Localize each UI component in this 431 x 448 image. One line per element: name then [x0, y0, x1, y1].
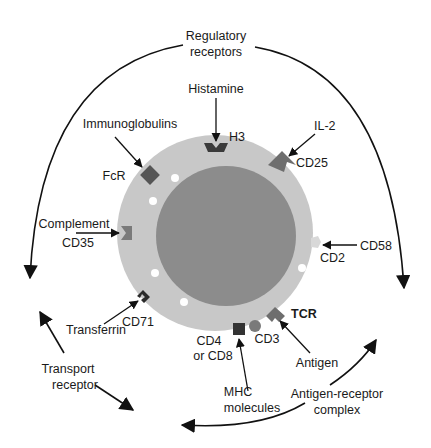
immunoglobulins-label: Immunoglobulins — [83, 117, 178, 131]
histamine-label: Histamine — [188, 82, 244, 96]
transferrin-label: Transferrin — [66, 323, 126, 337]
transport-arc-up — [40, 312, 64, 353]
t-cell-receptor-diagram: Regulatory receptors Transport receptor … — [0, 0, 431, 448]
antigen-receptor-complex-label-2: complex — [314, 403, 361, 417]
cd71-label: CD71 — [122, 315, 154, 329]
cd4-label: CD4 — [196, 334, 221, 348]
cd3-receptor-icon — [249, 320, 261, 332]
cd58-label: CD58 — [360, 239, 392, 253]
complement-label: Complement — [39, 217, 110, 231]
antigen-arrow — [280, 321, 310, 353]
mhc-label-2: molecules — [224, 401, 280, 415]
tcr-label: TCR — [291, 307, 317, 321]
regulatory-receptors-label-1: Regulatory — [186, 29, 247, 43]
il2-arrow — [289, 134, 315, 156]
cd3-label: CD3 — [254, 332, 279, 346]
transport-arc-down — [95, 385, 133, 410]
cd35-label: CD35 — [62, 236, 94, 250]
h3-label: H3 — [229, 130, 245, 144]
antigen-receptor-complex-label-1: Antigen-receptor — [291, 387, 383, 401]
mhc-arrow — [239, 339, 248, 391]
fcr-label: FcR — [103, 169, 126, 183]
il2-label: IL-2 — [314, 119, 336, 133]
cd2-label: CD2 — [320, 251, 345, 265]
regulatory-receptors-label-2: receptors — [190, 45, 242, 59]
cd25-label: CD25 — [296, 156, 328, 170]
cell-nucleus — [156, 166, 296, 306]
transport-receptor-label-1: Transport — [41, 362, 95, 376]
antigen-label: Antigen — [296, 356, 338, 370]
transport-receptor-label-2: receptor — [52, 378, 98, 392]
mhc-label-1: MHC — [224, 385, 252, 399]
immunoglobulins-arrow — [115, 137, 142, 167]
cd2-receptor-icon — [311, 236, 321, 248]
cd4-cd8-receptor-icon — [233, 323, 245, 335]
cd8-label: or CD8 — [193, 349, 233, 363]
